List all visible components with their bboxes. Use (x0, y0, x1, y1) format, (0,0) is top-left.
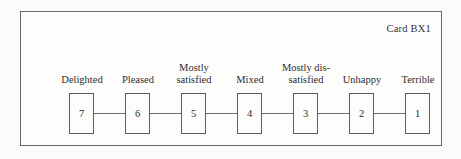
scale-point-label-line: Mostly dis- (278, 62, 334, 74)
scale-point-box[interactable]: 7 (69, 93, 94, 134)
scale-point-value: 3 (294, 94, 317, 133)
scale-point[interactable]: Terrible1 (390, 12, 446, 147)
scale-point-label: Delighted (54, 74, 110, 86)
scale-point-label: Terrible (390, 74, 446, 86)
scale-point-value: 5 (182, 94, 205, 133)
scale-point[interactable]: Mixed4 (222, 12, 278, 147)
scale-point[interactable]: Mostlysatisfied5 (166, 12, 222, 147)
scale-point-label: Pleased (110, 74, 166, 86)
scale-point-label-line: Delighted (54, 74, 110, 86)
scale-point-label-line: satisfied (166, 74, 222, 86)
scale-point-label: Mixed (222, 74, 278, 86)
scale-point-box[interactable]: 3 (293, 93, 318, 134)
scale-point-value: 2 (350, 94, 373, 133)
scanned-page-background: Card BX1 Delighted7Pleased6Mostlysatisfi… (0, 0, 461, 159)
scale-point-label-line: Pleased (110, 74, 166, 86)
card-frame: Card BX1 Delighted7Pleased6Mostlysatisfi… (20, 11, 442, 146)
scale-point[interactable]: Mostly dis-satisfied3 (278, 12, 334, 147)
scale-point-label-line: Unhappy (334, 74, 390, 86)
scale-point-box[interactable]: 6 (125, 93, 150, 134)
scale-point-label-line: Mixed (222, 74, 278, 86)
scale-point-value: 4 (238, 94, 261, 133)
scale-point-label: Unhappy (334, 74, 390, 86)
scale-point[interactable]: Unhappy2 (334, 12, 390, 147)
scale-point-box[interactable]: 2 (349, 93, 374, 134)
scale-point-label: Mostlysatisfied (166, 62, 222, 85)
scale-point-box[interactable]: 1 (405, 93, 430, 134)
scale-point-box[interactable]: 5 (181, 93, 206, 134)
scale-point-box[interactable]: 4 (237, 93, 262, 134)
scale-point-label: Mostly dis-satisfied (278, 62, 334, 85)
scale-point-value: 7 (70, 94, 93, 133)
scale-point[interactable]: Delighted7 (54, 12, 110, 147)
satisfaction-scale: Delighted7Pleased6Mostlysatisfied5Mixed4… (21, 12, 443, 147)
scale-point-label-line: satisfied (278, 74, 334, 86)
scale-point-value: 1 (406, 94, 429, 133)
scale-point-label-line: Terrible (390, 74, 446, 86)
scale-point-label-line: Mostly (166, 62, 222, 74)
scale-point[interactable]: Pleased6 (110, 12, 166, 147)
scale-point-value: 6 (126, 94, 149, 133)
